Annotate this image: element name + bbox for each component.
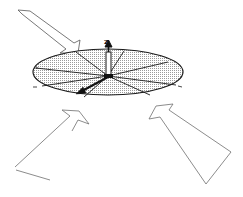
disc-diagram	[0, 0, 243, 197]
bottom-right-arrow-icon	[149, 104, 231, 184]
hub	[104, 74, 113, 78]
bottom-left-arrow-icon	[15, 110, 89, 180]
top-left-arrow-icon	[18, 10, 80, 53]
z-axis-label: z	[104, 37, 109, 45]
